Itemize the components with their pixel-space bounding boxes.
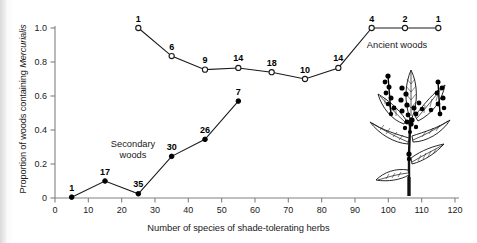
ancient-data-point xyxy=(402,25,407,30)
x-tick-label: 40 xyxy=(183,205,193,215)
x-tick-label: 70 xyxy=(283,205,293,215)
ancient-data-point xyxy=(136,25,141,30)
secondary-woods-annotation-line1: Secondary xyxy=(111,139,156,149)
x-tick-label: 80 xyxy=(317,205,327,215)
x-tick-label: 100 xyxy=(381,205,396,215)
x-tick-label: 20 xyxy=(117,205,127,215)
data-point-label: 14 xyxy=(333,53,343,63)
ancient-data-point xyxy=(302,76,307,81)
data-point-label: 1 xyxy=(136,14,141,24)
data-point-label: 35 xyxy=(133,179,143,189)
y-tick-label: 0.6 xyxy=(34,91,47,101)
y-tick-label: 0.8 xyxy=(34,57,47,67)
secondary-data-point xyxy=(69,195,74,200)
ancient-data-point xyxy=(236,65,241,70)
ancient-data-point xyxy=(202,67,207,72)
data-point-label: 26 xyxy=(200,125,210,135)
x-tick-label: 90 xyxy=(350,205,360,215)
x-tick-label: 0 xyxy=(52,205,57,215)
x-tick-label: 120 xyxy=(447,205,462,215)
ancient-data-point xyxy=(169,53,174,58)
y-tick-label: 0 xyxy=(42,193,47,203)
secondary-data-point xyxy=(203,137,208,142)
x-tick-label: 110 xyxy=(414,205,428,215)
data-point-label: 2 xyxy=(402,14,407,24)
data-point-label: 4 xyxy=(369,14,374,24)
x-tick-label: 30 xyxy=(150,205,160,215)
data-point-label: 6 xyxy=(169,42,174,52)
ancient-woods-annotation: Ancient woods xyxy=(367,40,428,50)
data-point-label: 10 xyxy=(300,65,310,75)
data-point-label: 30 xyxy=(167,142,177,152)
data-point-label: 17 xyxy=(100,167,110,177)
secondary-data-point xyxy=(169,154,174,159)
ancient-data-point xyxy=(336,65,341,70)
y-tick-label: 0.4 xyxy=(34,125,47,135)
secondary-data-point xyxy=(236,99,241,104)
secondary-data-point xyxy=(136,191,141,196)
secondary-woods-annotation-line2: woods xyxy=(119,150,147,160)
x-tick-label: 10 xyxy=(83,205,93,215)
secondary-data-point xyxy=(103,179,108,184)
x-tick-label: 60 xyxy=(250,205,260,215)
data-point-label: 1 xyxy=(69,183,74,193)
data-point-label: 18 xyxy=(267,58,277,68)
data-point-label: 1 xyxy=(436,14,441,24)
ancient-data-point xyxy=(269,70,274,75)
figure-root: Proportion of woods containing Mercurial… xyxy=(0,0,477,243)
y-tick-label: 0.2 xyxy=(34,159,47,169)
x-tick-label: 50 xyxy=(217,205,227,215)
mercurialis-perennis-plant-drawing xyxy=(352,58,472,203)
data-point-label: 7 xyxy=(236,87,241,97)
ancient-data-point xyxy=(436,25,441,30)
data-point-label: 9 xyxy=(202,55,207,65)
data-point-label: 14 xyxy=(233,53,243,63)
y-tick-label: 1.0 xyxy=(34,23,47,33)
ancient-data-point xyxy=(369,25,374,30)
secondary-woods-line xyxy=(72,101,239,197)
